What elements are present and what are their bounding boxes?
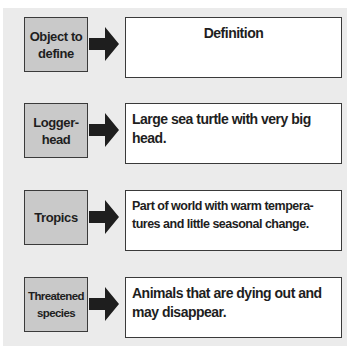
definition-box-header: Definition: [125, 17, 342, 78]
definition-box: Animals that are dying out and may disap…: [125, 277, 342, 338]
term-box: Logger- head: [24, 103, 88, 158]
right-arrow-icon: [89, 113, 120, 147]
term-box-header: Object to define: [24, 17, 88, 72]
definition-box: Part of world with warm tempera- tures a…: [125, 190, 342, 251]
definition-row: Logger- head Large sea turtle with very …: [0, 103, 352, 159]
definition-row: Tropics Part of world with warm tempera-…: [0, 190, 352, 246]
term-box: Threatened species: [24, 277, 88, 332]
term-box: Tropics: [24, 190, 88, 245]
right-arrow-icon: [89, 287, 120, 321]
definition-box: Large sea turtle with very big head.: [125, 103, 342, 164]
right-arrow-icon: [89, 200, 120, 234]
right-arrow-icon: [89, 27, 120, 61]
header-row: Object to define Definition: [0, 17, 352, 73]
definition-row: Threatened species Animals that are dyin…: [0, 277, 352, 333]
